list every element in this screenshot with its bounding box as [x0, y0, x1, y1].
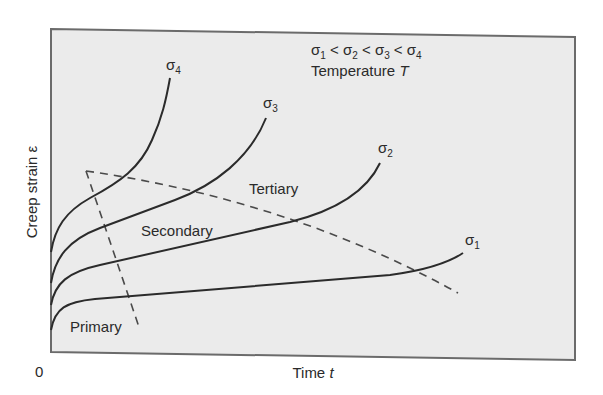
origin-label: 0 [35, 363, 43, 380]
region-label-secondary: Secondary [141, 222, 213, 239]
creep-curves-figure: σ4 σ3 σ2 σ1 Primary Secondary Tertiary σ… [0, 0, 603, 395]
region-label-primary: Primary [70, 318, 122, 335]
y-axis-label: Creep strain ε [23, 145, 40, 238]
region-label-tertiary: Tertiary [249, 180, 299, 197]
temperature-annotation: Temperature T [311, 62, 410, 79]
x-axis-label: Time t [292, 364, 334, 381]
